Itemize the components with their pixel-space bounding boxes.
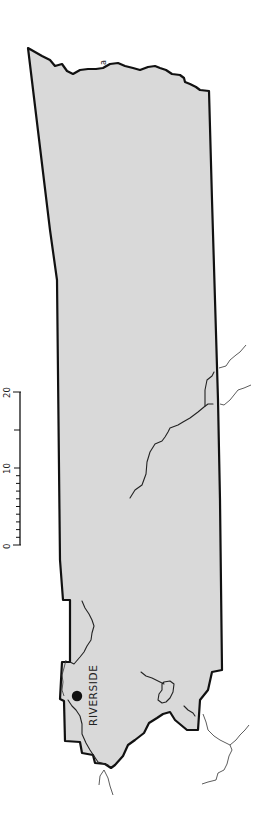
scale-label-10: 10 xyxy=(2,463,12,474)
county-region xyxy=(28,48,222,768)
scale-bar: 0 10 20 xyxy=(2,387,21,549)
city-marker-icon xyxy=(72,691,82,701)
river-south-outside xyxy=(99,770,113,795)
feature-label: a xyxy=(99,60,108,65)
county-fill xyxy=(28,48,222,768)
river-outside-lower xyxy=(220,385,251,405)
city-label: RIVERSIDE xyxy=(87,665,99,726)
scale-label-20: 20 xyxy=(2,387,12,398)
river-outside-upper xyxy=(219,345,246,368)
scale-label-0: 0 xyxy=(2,544,12,549)
river-southeast-outside xyxy=(202,714,249,784)
map-canvas: a RIVERSIDE 0 10 20 xyxy=(0,0,263,831)
